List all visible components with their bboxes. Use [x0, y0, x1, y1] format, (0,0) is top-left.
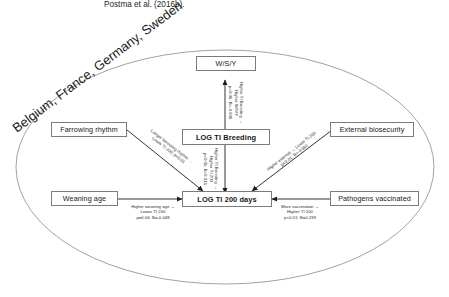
edge-label-line-2: Higher TI 200	[209, 156, 214, 182]
node-external-biosecurity-label: External biosecurity	[340, 125, 405, 134]
edge-label-line-2: Lower TI 200	[140, 209, 165, 214]
edge-label-line-1: Higher TI Breeding →	[214, 148, 219, 189]
node-pathogens-vaccinated[interactable]: Pathogens vaccinated	[330, 191, 419, 206]
node-pathogens-vaccinated-label: Pathogens vaccinated	[338, 194, 411, 203]
node-external-biosecurity[interactable]: External biosecurity	[330, 122, 414, 137]
node-log-ti-200-days-label: LOG TI 200 days	[197, 195, 256, 204]
node-weaning-age-label: Weaning age	[63, 194, 106, 203]
edge-label-line-3: p=0.06; B=-0.048	[136, 215, 169, 220]
edge-label-line-1: Higher TI Breeding →	[239, 82, 244, 123]
edge-label-vaccinated-to-ti200: More vaccination → Higher TI 200 p<0.01;…	[258, 204, 342, 220]
node-wsy-label: W/S/Y	[216, 59, 237, 68]
edge-label-line-2: Higher W/S/Y	[234, 90, 239, 116]
node-weaning-age[interactable]: Weaning age	[51, 191, 118, 206]
edge-label-line-1: More vaccination →	[281, 204, 319, 209]
node-wsy[interactable]: W/S/Y	[196, 56, 256, 71]
node-log-ti-breeding[interactable]: LOG TI Breeding	[182, 129, 270, 145]
edge-label-breeding-to-wsy: Higher TI Breeding → Higher W/S/Y p=0.06…	[228, 78, 244, 128]
diagram-vectors	[0, 0, 449, 297]
edge-label-line-3: p<0.01; B=0.239	[284, 215, 316, 220]
edge-label-line-1: Higher weaning age →	[131, 204, 175, 209]
node-farrowing-rhythm[interactable]: Farrowing rhythm	[51, 122, 127, 137]
edge-label-line-2: Higher TI 200	[287, 209, 313, 214]
edge-label-line-3: p=0.06; B=-0.006	[228, 86, 233, 119]
edge-label-weaning-to-ti200: Higher weaning age → Lower TI 200 p=0.06…	[110, 204, 196, 220]
node-farrowing-rhythm-label: Farrowing rhythm	[60, 125, 118, 134]
diagram-canvas: Postma et al. (2016b). Belgium, France, …	[0, 0, 449, 297]
node-log-ti-breeding-label: LOG TI Breeding	[196, 133, 256, 142]
